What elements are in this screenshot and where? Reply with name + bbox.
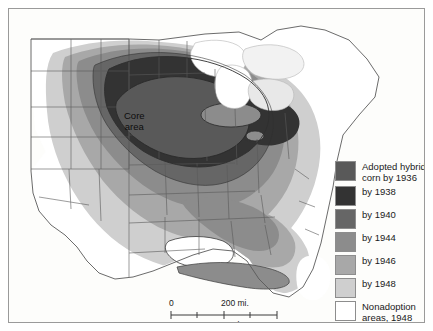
legend-swatch-1944 — [335, 232, 356, 252]
legend-item-1948: by 1948 — [335, 278, 425, 298]
legend-label-1948: by 1948 — [362, 278, 396, 290]
legend-label-1936: Adopted hybrid corn by 1936 — [362, 161, 425, 183]
legend-swatch-1948 — [335, 278, 356, 298]
legend-swatch-1936 — [335, 161, 356, 181]
scale-bar-rule — [169, 310, 281, 320]
legend-label-1946: by 1946 — [362, 255, 396, 267]
nonadoption-pocket-florida — [296, 255, 330, 300]
scale-km-value: 400 km. — [221, 320, 251, 323]
legend-item-1944: by 1944 — [335, 232, 425, 252]
legend-item-1940: by 1940 — [335, 209, 425, 229]
legend-label-nonadoption: Nonadoption areas, 1948 — [362, 301, 416, 323]
scale-miles-zero: 0 — [169, 298, 174, 308]
legend-item-1938: by 1938 — [335, 186, 425, 206]
scale-bar: 0 200 mi. 0 400 km. — [169, 298, 299, 323]
legend-label-1938: by 1938 — [362, 186, 396, 198]
legend-swatch-1938 — [335, 186, 356, 206]
legend-item-1936: Adopted hybrid corn by 1936 — [335, 161, 425, 183]
legend-item-1946: by 1946 — [335, 255, 425, 275]
map-legend: Adopted hybrid corn by 1936 by 1938 by 1… — [335, 161, 425, 323]
legend-swatch-nonadoption — [335, 301, 356, 321]
scale-miles-value: 200 mi. — [221, 298, 249, 308]
map-figure: Core area Adopted hybrid corn by 1936 by… — [0, 0, 433, 331]
legend-label-1940: by 1940 — [362, 209, 396, 221]
legend-item-nonadoption: Nonadoption areas, 1948 — [335, 301, 425, 323]
map-frame: Core area Adopted hybrid corn by 1936 by… — [8, 8, 425, 323]
legend-swatch-1940 — [335, 209, 356, 229]
legend-swatch-1946 — [335, 255, 356, 275]
scale-km-zero: 0 — [169, 320, 174, 323]
legend-label-1944: by 1944 — [362, 232, 396, 244]
